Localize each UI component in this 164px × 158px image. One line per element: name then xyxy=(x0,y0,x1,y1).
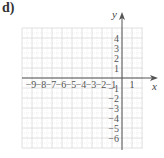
y-tick-label: −6 xyxy=(108,133,119,144)
y-axis-label: y xyxy=(111,8,117,20)
coordinate-grid: x y −9−8−7−6−5−4−3−2−11 4321−1−2−3−4−5−6 xyxy=(0,0,164,158)
x-tick-label: 1 xyxy=(130,79,135,90)
x-axis-label: x xyxy=(151,80,157,92)
y-tick-label: 1 xyxy=(114,63,119,74)
y-tick-labels: 4321−1−2−3−4−5−6 xyxy=(108,33,119,144)
